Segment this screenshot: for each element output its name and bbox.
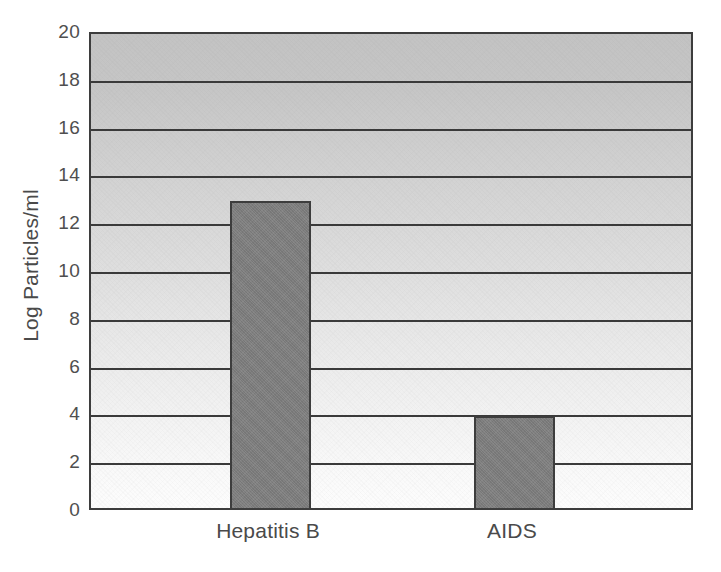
y-tick-label: 16 — [20, 118, 80, 137]
y-tick-label: 18 — [20, 70, 80, 89]
chart-figure: Log Particles/ml 02468101214161820 Hepat… — [0, 0, 721, 572]
y-tick-label: 20 — [20, 22, 80, 41]
y-axis-ticks: 02468101214161820 — [12, 32, 80, 510]
gridline — [91, 81, 691, 83]
gridline — [91, 224, 691, 226]
gridline — [91, 463, 691, 465]
y-tick-label: 4 — [20, 404, 80, 423]
plot-background-texture — [91, 34, 691, 508]
gridline — [91, 272, 691, 274]
gridline — [91, 176, 691, 178]
bar-texture — [476, 418, 553, 510]
y-tick-label: 2 — [20, 452, 80, 471]
gridline — [91, 129, 691, 131]
gridline — [91, 368, 691, 370]
y-tick-label: 12 — [20, 213, 80, 232]
y-tick-label: 0 — [20, 500, 80, 519]
y-tick-label: 10 — [20, 261, 80, 280]
gridline — [91, 415, 691, 417]
bar-hepatitis-b[interactable] — [230, 201, 311, 510]
x-tick-label: AIDS — [362, 519, 662, 543]
bar-texture — [232, 203, 309, 510]
y-tick-label: 14 — [20, 165, 80, 184]
gridline — [91, 320, 691, 322]
y-tick-label: 8 — [20, 309, 80, 328]
y-tick-label: 6 — [20, 357, 80, 376]
bar-aids[interactable] — [474, 416, 555, 510]
plot-area — [89, 32, 693, 510]
